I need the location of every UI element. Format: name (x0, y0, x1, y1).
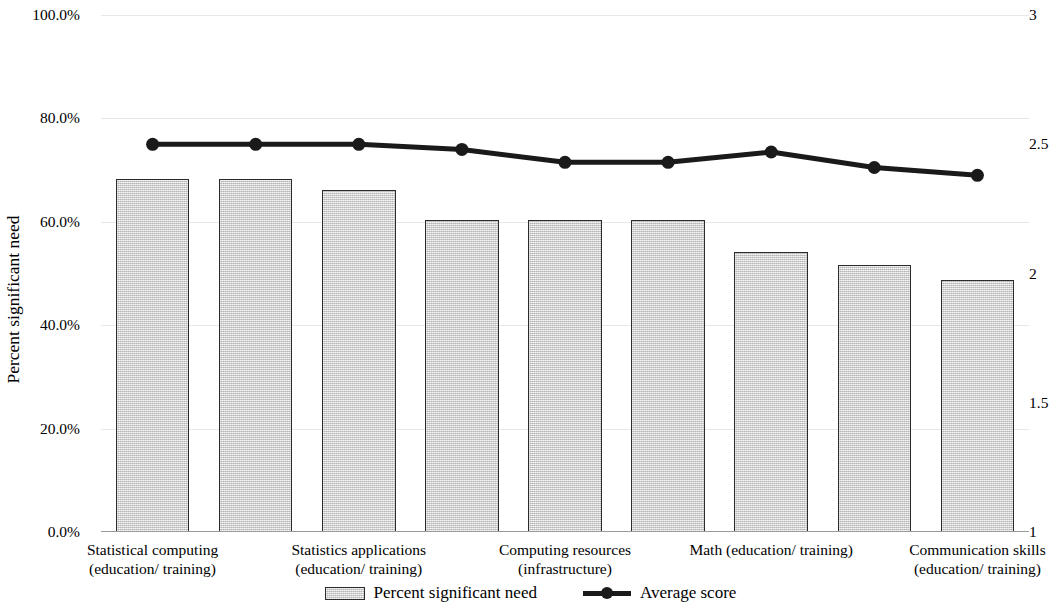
line-marker (455, 143, 468, 156)
line-marker (352, 138, 365, 151)
left-axis-tick-label: 100.0% (32, 7, 80, 23)
chart-legend: Percent significant need Average score (0, 583, 1061, 603)
legend-label-average-score: Average score (640, 583, 736, 603)
legend-item-average-score: Average score (583, 583, 736, 603)
legend-label-percent-significant-need: Percent significant need (374, 583, 537, 603)
category-label-line1: Communication skills (867, 540, 1061, 559)
y-axis-title: Percent significant need (0, 41, 26, 558)
x-axis-category-label: Statistical computing(education/ trainin… (43, 540, 263, 578)
category-label-line1: Math (education/ training) (661, 540, 881, 559)
line-marker (971, 169, 984, 182)
chart-root: Percent significant need 0.0%20.0%40.0%6… (0, 0, 1061, 610)
line-marker (249, 138, 262, 151)
category-label-line2: (education/ training) (249, 559, 469, 578)
plot-area (101, 15, 1029, 532)
right-axis-tick-label: 2 (1029, 266, 1037, 282)
line-marker (146, 138, 159, 151)
x-axis-category-label: Math (education/ training) (661, 540, 881, 559)
left-axis-tick-label: 40.0% (40, 317, 80, 333)
left-axis-tick-label: 20.0% (40, 421, 80, 437)
legend-item-percent-significant-need: Percent significant need (325, 583, 537, 603)
line-series (101, 15, 1029, 532)
category-label-line1: Computing resources (455, 540, 675, 559)
bar-swatch-icon (325, 587, 365, 600)
category-label-line2: (infrastructure) (455, 559, 675, 578)
x-axis-category-label: Statistics applications(education/ train… (249, 540, 469, 578)
x-axis-category-label: Computing resources(infrastructure) (455, 540, 675, 578)
line-marker-icon (583, 586, 631, 600)
line-marker (765, 146, 778, 159)
right-axis-tick-label: 2.5 (1029, 136, 1048, 152)
left-axis-tick-label: 60.0% (40, 214, 80, 230)
category-label-line1: Statistics applications (249, 540, 469, 559)
category-label-line2: (education/ training) (43, 559, 263, 578)
right-axis-tick-label: 3 (1029, 7, 1037, 23)
category-label-line2: (education/ training) (867, 559, 1061, 578)
left-axis-tick-label: 80.0% (40, 110, 80, 126)
line-marker (662, 156, 675, 169)
right-axis-tick-label: 1.5 (1029, 395, 1048, 411)
right-axis-tick-label: 1 (1029, 524, 1037, 540)
left-axis-tick-label: 0.0% (48, 524, 80, 540)
x-axis-baseline (101, 531, 1029, 532)
category-label-line1: Statistical computing (43, 540, 263, 559)
x-axis-category-label: Communication skills(education/ training… (867, 540, 1061, 578)
line-marker (868, 161, 881, 174)
line-marker (559, 156, 572, 169)
